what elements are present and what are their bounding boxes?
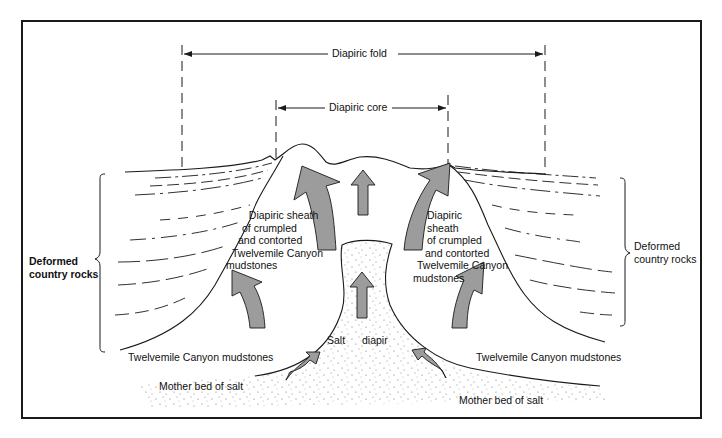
diapiric-core-label: Diapiric core <box>325 101 391 114</box>
right-mudstones-label: Twelvemile Canyon mudstones <box>476 351 621 364</box>
diapir-label: diapir <box>362 334 388 347</box>
arrow-icon <box>351 170 375 215</box>
salt-diapir-diagram <box>0 0 722 438</box>
diapiric-fold-label: Diapiric fold <box>328 47 391 60</box>
right-sheath-label: Diapiric sheath of crumpled and contorte… <box>415 209 508 284</box>
left-mother-bed-label: Mother bed of salt <box>159 380 243 393</box>
left-mudstones-label: Twelvemile Canyon mudstones <box>128 351 273 364</box>
salt-label: Salt <box>327 334 345 347</box>
left-country-rocks-label: Deformed country rocks <box>29 255 98 281</box>
right-brace <box>620 178 630 326</box>
arrow-icon <box>232 270 265 328</box>
right-mother-bed-label: Mother bed of salt <box>459 394 543 407</box>
right-country-rocks-label: Deformed country rocks <box>634 240 696 266</box>
left-sheath-label: Diapiric sheath of crumpled and contorte… <box>232 209 323 272</box>
